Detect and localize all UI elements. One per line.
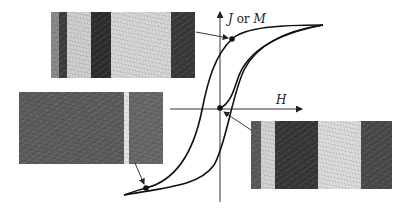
- point-origin: [217, 105, 223, 111]
- point-negative: [143, 185, 149, 191]
- y-var-j: J: [228, 12, 233, 26]
- point-saturation: [229, 36, 235, 42]
- y-axis-label: J or M: [228, 12, 266, 26]
- descending-branch: [124, 25, 323, 195]
- pointer-arrow-left: [135, 163, 144, 184]
- x-axis-label: H: [276, 93, 286, 107]
- hysteresis-plot: [0, 0, 412, 213]
- y-var-m: M: [253, 12, 265, 26]
- ascending-branch: [124, 25, 323, 195]
- y-label-or: or: [237, 12, 250, 26]
- pointer-arrow-top: [196, 32, 228, 38]
